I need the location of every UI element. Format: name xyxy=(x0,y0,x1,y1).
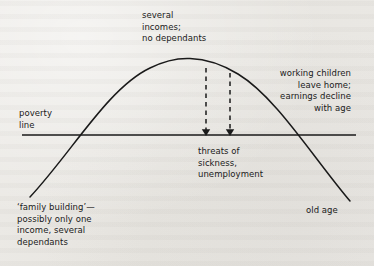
annotation-family-building: ‘family building’— possibly only one inc… xyxy=(17,202,95,249)
annotation-working-children: working children leave home; earnings de… xyxy=(280,68,351,115)
annotation-several-incomes: several incomes; no dependants xyxy=(142,10,206,45)
life-cycle-poverty-figure: several incomes; no dependants poverty l… xyxy=(0,0,374,266)
annotation-threats: threats of sickness, unemployment xyxy=(198,146,263,181)
annotation-old-age: old age xyxy=(306,205,338,217)
annotation-poverty-line: poverty line xyxy=(19,108,52,131)
